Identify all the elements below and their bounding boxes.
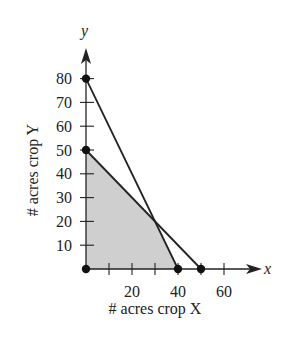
shaded-region: [86, 150, 178, 269]
y-tick-label: 50: [56, 142, 72, 159]
vertex-dot: [82, 265, 90, 273]
feasible-region: [86, 150, 178, 269]
y-tick-label: 10: [56, 237, 72, 254]
y-tick-label: 40: [56, 165, 72, 182]
x-axis-title: # acres crop X: [109, 300, 202, 318]
x-tick-label: 20: [124, 283, 140, 300]
vertex-dot: [82, 146, 90, 154]
vertex-dot: [197, 265, 205, 273]
y-axis-title: # acres crop Y: [24, 123, 42, 216]
x-tick-label: 60: [216, 283, 232, 300]
y-tick-label: 60: [56, 118, 72, 135]
x-tick-label: 40: [170, 283, 186, 300]
y-tick-label: 70: [56, 94, 72, 111]
vertex-dot: [82, 74, 90, 82]
y-tick-label: 80: [56, 70, 72, 87]
x-axis-name: x: [263, 260, 271, 277]
y-tick-label: 30: [56, 189, 72, 206]
feasible-region-chart: 2040601020304050607080 x y # acres crop …: [0, 0, 290, 342]
y-axis-name: y: [79, 22, 89, 40]
y-tick-label: 20: [56, 213, 72, 230]
vertex-dot: [174, 265, 182, 273]
